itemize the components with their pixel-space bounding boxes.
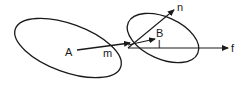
label-f: f bbox=[231, 42, 235, 54]
vector-ellipse-diagram: A m B l n f bbox=[0, 0, 249, 89]
label-a: A bbox=[65, 46, 73, 58]
label-n: n bbox=[177, 1, 183, 13]
label-m: m bbox=[103, 47, 112, 59]
label-l: l bbox=[158, 38, 160, 50]
diagram-canvas: A m B l n f bbox=[0, 0, 249, 89]
